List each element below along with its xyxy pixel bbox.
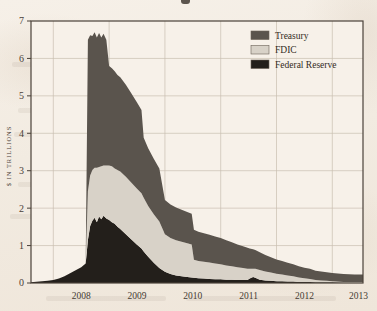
y-tick-label: 7 (19, 15, 24, 26)
y-tick-label: 4 (19, 128, 24, 139)
y-tick-label: 0 (19, 277, 24, 288)
y-tick-label: 1 (19, 240, 24, 251)
x-tick-label: 2010 (183, 291, 202, 301)
legend-label-federal-reserve: Federal Reserve (275, 60, 336, 70)
y-tick-label: 3 (19, 165, 24, 176)
stacked-area-chart: 01234567$ IN TRILLIONS200820092010201120… (0, 0, 377, 311)
y-axis: 01234567 (19, 15, 31, 288)
legend-label-fdic: FDIC (275, 45, 297, 55)
x-tick-label: 2013 (349, 291, 368, 301)
x-tick-label: 2008 (72, 291, 91, 301)
y-tick-label: 2 (19, 203, 24, 214)
x-tick-label: 2012 (295, 291, 314, 301)
x-tick-label: 2009 (128, 291, 147, 301)
y-tick-label: 6 (19, 53, 24, 64)
legend-swatch-fdic (251, 46, 269, 55)
legend-swatch-treasury (251, 31, 269, 40)
chart-page: 01234567$ IN TRILLIONS200820092010201120… (0, 0, 377, 311)
y-tick-label: 5 (19, 90, 24, 101)
y-axis-label: $ IN TRILLIONS (5, 126, 12, 187)
legend-label-treasury: Treasury (275, 31, 309, 41)
x-axis: 200820092010201120122013 (72, 291, 369, 301)
legend-swatch-federal-reserve (251, 60, 269, 69)
x-tick-label: 2011 (239, 291, 258, 301)
